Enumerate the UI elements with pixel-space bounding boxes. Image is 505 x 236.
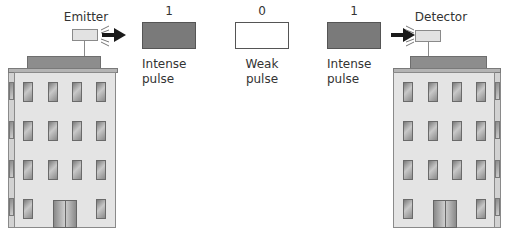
detector-pole <box>428 42 429 57</box>
window <box>403 199 413 219</box>
window <box>452 121 462 141</box>
pulse-bit-1: 1 <box>142 4 196 18</box>
window <box>96 199 106 219</box>
pulse-box-intense-2 <box>327 22 381 49</box>
emitter-pole <box>84 41 85 57</box>
window <box>452 82 462 102</box>
door-divider <box>65 200 66 228</box>
window <box>476 82 486 102</box>
pulse-caption-1-line1: Intense <box>136 57 198 71</box>
window <box>48 121 58 141</box>
door-divider <box>445 200 446 228</box>
window <box>96 82 106 102</box>
window <box>495 121 500 139</box>
window <box>495 198 500 216</box>
window <box>72 82 82 102</box>
window <box>476 199 486 219</box>
pulse-box-weak <box>235 22 289 49</box>
detector-device <box>415 30 441 42</box>
window <box>428 121 438 141</box>
emitter-label: Emitter <box>58 10 114 24</box>
window <box>403 82 413 102</box>
window <box>476 160 486 180</box>
window <box>9 82 14 100</box>
window <box>48 160 58 180</box>
pulse-caption-3-line2: pulse <box>321 72 383 86</box>
pulse-box-intense-1 <box>142 22 196 49</box>
pulse-bit-3: 1 <box>327 4 381 18</box>
pulse-caption-3-line1: Intense <box>321 57 383 71</box>
window <box>9 160 14 178</box>
window <box>9 198 14 216</box>
window <box>428 82 438 102</box>
window <box>23 82 33 102</box>
pulse-caption-2-line2: pulse <box>235 72 289 86</box>
window <box>96 121 106 141</box>
window <box>476 121 486 141</box>
window <box>9 121 14 139</box>
window <box>23 160 33 180</box>
pulse-caption-2-line1: Weak <box>235 57 289 71</box>
detector-label: Detector <box>410 10 472 24</box>
emitter-device <box>72 29 98 41</box>
window <box>495 160 500 178</box>
window <box>495 82 500 100</box>
window <box>96 160 106 180</box>
pulse-caption-1-line2: pulse <box>136 72 198 86</box>
window <box>452 160 462 180</box>
window <box>72 160 82 180</box>
window <box>72 121 82 141</box>
window <box>403 121 413 141</box>
window <box>48 82 58 102</box>
window <box>403 160 413 180</box>
arrow-right-icon <box>102 28 126 42</box>
window <box>23 199 33 219</box>
window <box>428 160 438 180</box>
window <box>23 121 33 141</box>
pulse-bit-2: 0 <box>235 4 289 18</box>
